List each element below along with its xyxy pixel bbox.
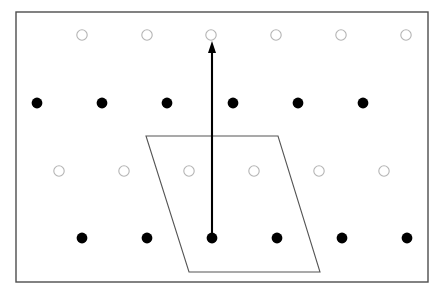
lattice-point-open-circle xyxy=(401,30,411,40)
figure-background xyxy=(0,0,443,294)
lattice-point-open-circle xyxy=(142,30,152,40)
lattice-point-filled-circle xyxy=(142,233,153,244)
lattice-figure xyxy=(0,0,443,294)
lattice-point-open-circle xyxy=(379,166,389,176)
lattice-point-open-circle xyxy=(184,166,194,176)
lattice-canvas xyxy=(0,0,443,294)
lattice-point-open-circle xyxy=(314,166,324,176)
lattice-point-filled-circle xyxy=(358,98,369,109)
lattice-point-filled-circle xyxy=(77,233,88,244)
lattice-point-open-circle xyxy=(119,166,129,176)
lattice-point-open-circle xyxy=(206,30,216,40)
lattice-point-filled-circle xyxy=(402,233,413,244)
lattice-point-open-circle xyxy=(77,30,87,40)
lattice-point-filled-circle xyxy=(293,98,304,109)
lattice-point-filled-circle xyxy=(32,98,43,109)
lattice-point-filled-circle xyxy=(97,98,108,109)
lattice-point-filled-circle xyxy=(272,233,283,244)
lattice-point-filled-circle xyxy=(337,233,348,244)
lattice-point-open-circle xyxy=(336,30,346,40)
lattice-point-filled-circle xyxy=(228,98,239,109)
lattice-point-open-circle xyxy=(271,30,281,40)
lattice-point-filled-circle xyxy=(162,98,173,109)
lattice-point-open-circle xyxy=(54,166,64,176)
lattice-point-open-circle xyxy=(249,166,259,176)
